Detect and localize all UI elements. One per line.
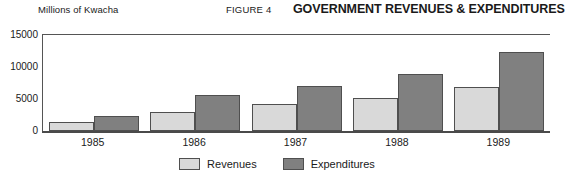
x-tick-label-1986: 1986 [143,136,244,148]
bar-group [454,35,544,131]
chart-legend: RevenuesExpenditures [0,155,554,173]
y-tick-label: 0 [32,126,38,136]
x-axis: 19851986198719881989 [42,136,550,152]
legend-label-revenues: Revenues [207,158,257,170]
bar-expenditures-1986 [195,95,240,131]
bar-revenues-1985 [49,122,94,131]
bar-expenditures-1989 [499,52,544,131]
x-tick-label-1989: 1989 [448,136,549,148]
legend-swatch-revenues [179,158,200,170]
bar-revenues-1989 [454,87,499,131]
legend-swatch-expenditures [283,158,304,170]
y-tick-label: 5000 [16,94,38,104]
x-axis-baseline [42,131,550,133]
bar-revenues-1987 [252,104,297,131]
chart-title: GOVERNMENT REVENUES & EXPENDITURES [293,2,565,16]
bar-revenues-1988 [353,98,398,131]
bars-plot-area [43,35,550,131]
y-axis-unit-label: Millions of Kwacha [38,4,118,15]
chart-header: Millions of Kwacha FIGURE 4 GOVERNMENT R… [0,0,554,22]
y-tick-label: 10000 [10,62,38,72]
bar-expenditures-1987 [297,86,342,131]
x-tick-label-1988: 1988 [346,136,447,148]
x-tick-label-1985: 1985 [42,136,143,148]
bar-group [252,35,342,131]
bar-group [150,35,240,131]
bar-expenditures-1988 [398,74,443,131]
figure-number-label: FIGURE 4 [226,4,271,15]
legend-item-expenditures: Expenditures [283,158,375,170]
y-tick-label: 15000 [10,30,38,40]
x-tick-label-1987: 1987 [245,136,346,148]
bar-group [49,35,139,131]
bar-revenues-1986 [150,112,195,131]
bar-group [353,35,443,131]
y-axis: 050001000015000 [0,28,40,140]
legend-label-expenditures: Expenditures [311,158,375,170]
legend-item-revenues: Revenues [179,158,257,170]
bar-expenditures-1985 [94,116,139,131]
